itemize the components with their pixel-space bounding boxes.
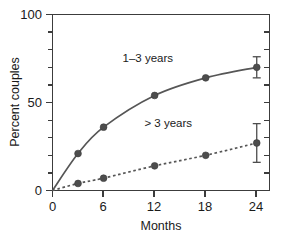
data-point-marker	[75, 150, 82, 157]
line-chart: 100 50 0 0 6 12 18 24 Months Percent cou…	[0, 0, 290, 235]
x-tick-label-0: 0	[49, 199, 56, 214]
data-point-marker	[151, 162, 158, 169]
y-axis-major-ticks	[46, 15, 52, 191]
data-point-marker	[100, 124, 107, 131]
x-tick-label-6: 6	[99, 199, 106, 214]
data-point-marker	[202, 152, 209, 159]
x-tick-label-24: 24	[249, 199, 263, 214]
x-axis-title: Months	[141, 219, 182, 233]
x-tick-label-18: 18	[198, 199, 212, 214]
y-tick-label-50: 50	[28, 95, 42, 110]
data-point-marker	[100, 175, 107, 182]
y-tick-label-0: 0	[35, 183, 42, 198]
data-point-marker	[253, 140, 260, 147]
series-annotation-gt-3-years: > 3 years	[144, 117, 192, 129]
data-point-marker	[202, 74, 209, 81]
data-point-marker	[75, 180, 82, 187]
data-point-marker	[151, 92, 158, 99]
series-annotation-1-3-years: 1–3 years	[123, 52, 174, 64]
y-axis-title: Percent couples	[8, 57, 22, 147]
data-point-marker	[253, 64, 260, 71]
chart-figure: 100 50 0 0 6 12 18 24 Months Percent cou…	[0, 0, 290, 235]
right-axis-ticks	[264, 32, 270, 173]
y-tick-label-100: 100	[20, 7, 42, 22]
x-tick-label-12: 12	[147, 199, 161, 214]
